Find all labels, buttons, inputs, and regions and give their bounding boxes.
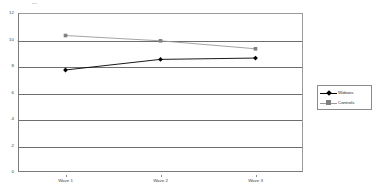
legend-item-label: Controls: [337, 101, 354, 105]
y-axis-labels: 024681012: [0, 13, 16, 172]
x-axis-tick: [66, 175, 67, 177]
legend-item[interactable]: Widows: [320, 88, 369, 98]
data-point-diamond: [253, 56, 258, 61]
square-marker-icon: [320, 99, 337, 108]
data-point-square: [64, 34, 68, 38]
chart-legend[interactable]: Widows Controls: [317, 85, 372, 110]
data-series-layer: [18, 13, 303, 172]
y-axis-tick-label: 6: [12, 90, 14, 94]
x-axis-tick-label: Wave 3: [248, 179, 263, 183]
y-axis-tick-label: 12: [9, 11, 14, 15]
diamond-marker-icon: [320, 89, 337, 98]
line-chart: 024681012 Wave 1Wave 2Wave 3 Widows Cont…: [0, 0, 374, 191]
y-axis-tick-label: 0: [12, 170, 14, 174]
data-point-square: [159, 39, 163, 43]
y-axis-tick-label: 2: [12, 143, 14, 147]
x-axis-tick-label: Wave 1: [58, 179, 73, 183]
data-point-diamond: [63, 68, 68, 73]
x-axis-tick-label: Wave 2: [153, 179, 168, 183]
legend-item-label: Widows: [337, 91, 353, 95]
data-point-square: [254, 47, 258, 51]
scan-artifact: [32, 3, 37, 4]
x-axis-tick: [256, 175, 257, 177]
x-axis-labels: Wave 1Wave 2Wave 3: [18, 175, 303, 185]
y-axis-tick-label: 10: [9, 37, 14, 41]
legend-item[interactable]: Controls: [320, 98, 369, 108]
x-axis-tick: [161, 175, 162, 177]
y-axis-tick-label: 4: [12, 117, 14, 121]
data-point-diamond: [158, 57, 163, 62]
y-axis-tick-label: 8: [12, 64, 14, 68]
